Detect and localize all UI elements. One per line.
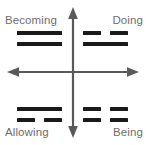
arrow-up-icon xyxy=(68,7,78,19)
quadrant-label-allowing: Allowing xyxy=(4,126,69,139)
digram-allowing xyxy=(17,107,62,122)
quadrant-bottom-left: Allowing xyxy=(4,79,69,139)
digram-line-upper xyxy=(83,31,128,35)
quadrant-diagram: Becoming Doing xyxy=(0,0,146,145)
quadrant-label-being: Being xyxy=(79,126,144,139)
digram-line-lower xyxy=(83,42,128,46)
digram-line-upper xyxy=(83,107,128,111)
digram-doing xyxy=(83,31,128,46)
quadrant-label-becoming: Becoming xyxy=(4,14,69,27)
digram-line-upper xyxy=(17,107,62,111)
quadrant-label-doing: Doing xyxy=(79,14,144,27)
digram-line-lower xyxy=(17,118,62,122)
digram-line-upper xyxy=(17,31,62,35)
quadrant-top-left: Becoming xyxy=(4,14,69,74)
digram-being xyxy=(83,107,128,122)
arrow-down-icon xyxy=(68,126,78,138)
quadrant-top-right: Doing xyxy=(79,14,144,74)
digram-line-lower xyxy=(17,42,62,46)
digram-line-lower xyxy=(83,118,128,122)
quadrant-bottom-right: Being xyxy=(79,79,144,139)
digram-becoming xyxy=(17,31,62,46)
